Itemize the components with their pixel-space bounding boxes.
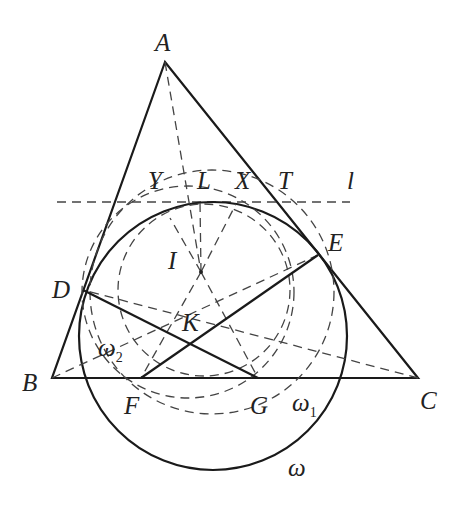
label-d: D — [52, 277, 70, 302]
line-ix — [201, 204, 236, 272]
label-l-point: L — [197, 168, 211, 193]
geometry-diagram: A B C D E F G I K Y L X T l ω2 ω1 ω — [0, 0, 465, 506]
incenter-dot — [199, 270, 203, 274]
label-a: A — [155, 30, 170, 55]
diagram-canvas — [0, 0, 465, 506]
label-e: E — [328, 230, 343, 255]
label-x: X — [235, 168, 250, 193]
label-f: F — [124, 393, 139, 418]
label-line-l: l — [347, 168, 354, 193]
line-il — [200, 202, 201, 272]
triangle-abc — [52, 62, 418, 378]
label-t: T — [278, 168, 292, 193]
line-ig — [201, 272, 258, 378]
circle-omega2 — [82, 186, 294, 398]
label-y: Y — [148, 168, 162, 193]
label-c: C — [420, 388, 437, 413]
label-k: K — [182, 310, 199, 335]
label-omega: ω — [288, 455, 306, 480]
label-g: G — [250, 393, 268, 418]
label-omega1: ω1 — [292, 390, 317, 420]
label-i: I — [168, 248, 176, 273]
label-b: B — [22, 370, 37, 395]
label-omega2: ω2 — [98, 335, 123, 365]
